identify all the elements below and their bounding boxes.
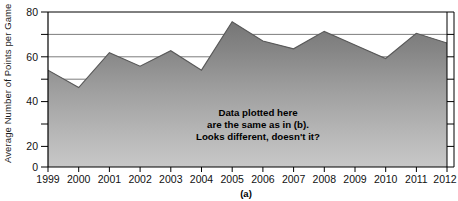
annotation-line-1: Data plotted here [218,107,298,118]
ytick-label-0: 0 [32,161,38,173]
xtick-label-2009: 2009 [343,173,367,185]
annotation-line-2: are the same as in (b). [207,119,309,130]
xtick-label-2004: 2004 [190,173,214,185]
xtick-label-2008: 2008 [313,173,337,185]
y-axis-title: Average Number of Points per Game [2,4,13,163]
ytick-label-60: 60 [26,51,38,63]
area-chart: 80 60 40 20 0 Average Number of Points p… [0,0,458,201]
xtick-label-2006: 2006 [251,173,275,185]
xtick-label-2012: 2012 [433,173,457,185]
xtick-label-2011: 2011 [405,173,428,185]
xtick-label-2005: 2005 [221,173,245,185]
xtick-label-2002: 2002 [128,173,152,185]
xtick-label-1999: 1999 [36,173,60,185]
xtick-label-2010: 2010 [374,173,398,185]
xtick-label-2007: 2007 [282,173,306,185]
panel-label: (a) [240,188,252,199]
ytick-label-20: 20 [26,140,38,152]
figure-panel-a: 80 60 40 20 0 Average Number of Points p… [0,0,458,201]
annotation-line-3: Looks different, doesn't it? [196,131,320,142]
ytick-label-80: 80 [26,6,38,18]
xtick-label-2001: 2001 [98,173,122,185]
ytick-label-40: 40 [26,95,38,107]
xtick-label-2003: 2003 [159,173,183,185]
xtick-label-2000: 2000 [67,173,91,185]
